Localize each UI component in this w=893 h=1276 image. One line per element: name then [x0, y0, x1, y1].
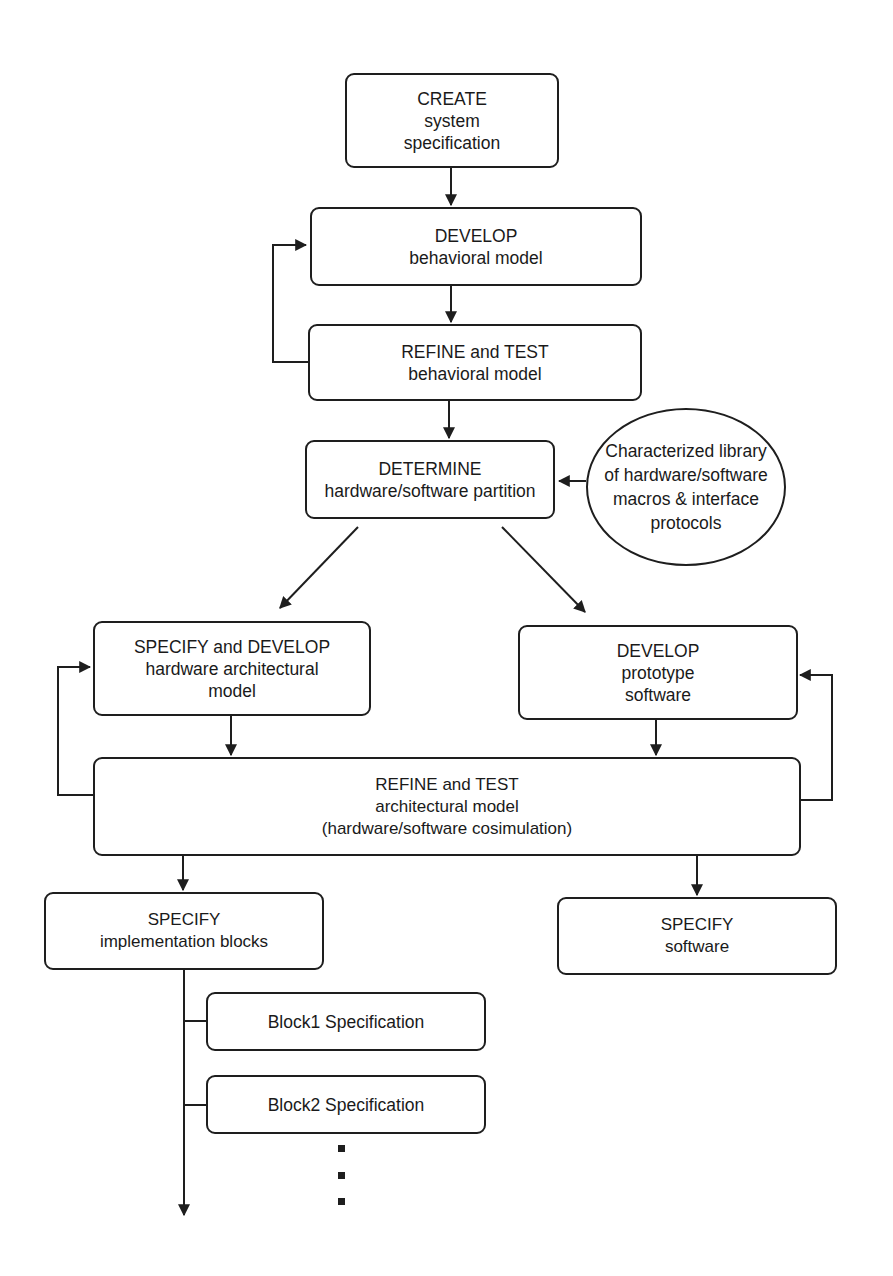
- node-label: (hardware/software cosimulation): [322, 818, 572, 840]
- node-label: model: [208, 680, 256, 702]
- node-label: DEVELOP: [617, 640, 700, 662]
- node-refine-test-architectural-model: REFINE and TEST architectural model (har…: [93, 757, 801, 856]
- node-develop-prototype-software: DEVELOP prototype software: [518, 625, 798, 720]
- node-label: architectural model: [375, 796, 519, 818]
- node-label: Block1 Specification: [268, 1011, 425, 1033]
- ellipsis-dot: [338, 1172, 345, 1179]
- node-develop-behavioral-model: DEVELOP behavioral model: [310, 207, 642, 286]
- node-label: behavioral model: [409, 247, 542, 269]
- node-label: system: [424, 110, 479, 132]
- node-label: CREATE: [417, 88, 487, 110]
- node-determine-partition: DETERMINE hardware/software partition: [305, 440, 555, 519]
- node-label: Characterized library: [605, 439, 766, 463]
- node-label: DEVELOP: [435, 225, 518, 247]
- node-refine-test-behavioral-model: REFINE and TEST behavioral model: [308, 324, 642, 401]
- node-block1-specification: Block1 Specification: [206, 992, 486, 1051]
- node-label: SPECIFY: [661, 914, 734, 936]
- node-label: software: [625, 684, 691, 706]
- node-label: REFINE and TEST: [375, 774, 518, 796]
- node-label: of hardware/software: [604, 463, 767, 487]
- node-label: REFINE and TEST: [401, 341, 549, 363]
- node-label: protocols: [650, 511, 721, 535]
- node-label: specification: [404, 132, 500, 154]
- node-specify-software: SPECIFY software: [557, 897, 837, 975]
- node-specify-implementation-blocks: SPECIFY implementation blocks: [44, 892, 324, 970]
- node-label: hardware architectural: [145, 658, 318, 680]
- node-characterized-library: Characterized library of hardware/softwa…: [586, 408, 786, 566]
- node-create-system-specification: CREATE system specification: [345, 73, 559, 168]
- node-label: SPECIFY: [148, 909, 221, 931]
- node-label: macros & interface: [613, 487, 759, 511]
- node-label: hardware/software partition: [324, 480, 535, 502]
- node-label: SPECIFY and DEVELOP: [134, 636, 330, 658]
- node-label: software: [665, 936, 729, 958]
- node-specify-develop-hw-architectural-model: SPECIFY and DEVELOP hardware architectur…: [93, 621, 371, 716]
- node-label: prototype: [622, 662, 695, 684]
- ellipsis-dot: [338, 1198, 345, 1205]
- node-label: DETERMINE: [378, 458, 481, 480]
- ellipsis-dot: [338, 1145, 345, 1152]
- node-label: Block2 Specification: [268, 1094, 425, 1116]
- node-label: behavioral model: [408, 363, 541, 385]
- flowchart: CREATE system specification DEVELOP beha…: [0, 0, 893, 1276]
- node-block2-specification: Block2 Specification: [206, 1075, 486, 1134]
- node-label: implementation blocks: [100, 931, 268, 953]
